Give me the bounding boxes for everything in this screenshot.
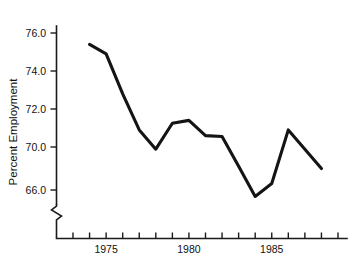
x-tick-label-1985: 1985 [260, 243, 284, 255]
chart-container: 76.0 74.0 72.0 70.0 66.0 197519801985 Pe… [0, 0, 355, 266]
y-axis-title: Percent Employment [7, 78, 19, 186]
data-series-line [90, 44, 322, 196]
x-tick-label-1975: 1975 [94, 243, 118, 255]
y-tick-label-76: 76.0 [26, 27, 47, 39]
y-tick-label-70: 70.0 [26, 141, 47, 153]
line-chart: 76.0 74.0 72.0 70.0 66.0 197519801985 Pe… [0, 0, 355, 266]
y-tick-labels: 76.0 74.0 72.0 70.0 66.0 [26, 27, 47, 196]
x-tick-labels: 197519801985 [94, 243, 283, 255]
y-axis-break-icon [52, 204, 62, 238]
y-tick-label-66: 66.0 [26, 184, 47, 196]
y-tick-label-72: 72.0 [26, 103, 47, 115]
x-tick-label-1980: 1980 [177, 243, 201, 255]
y-tick-marks [51, 33, 57, 190]
y-tick-label-74: 74.0 [26, 65, 47, 77]
x-tick-marks [73, 233, 338, 239]
